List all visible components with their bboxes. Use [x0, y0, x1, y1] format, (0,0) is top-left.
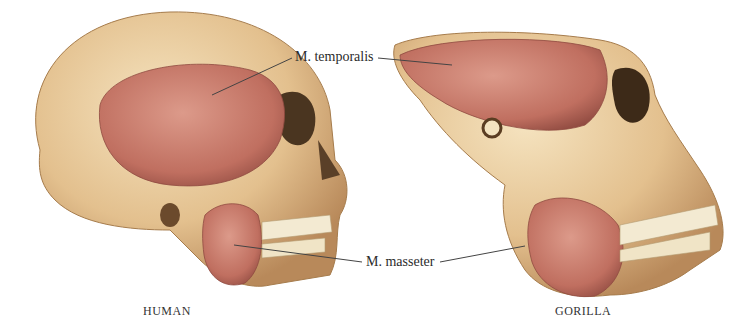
gorilla-caption: GORILLA [555, 304, 611, 319]
human-masseter-muscle [203, 204, 262, 285]
human-caption: HUMAN [143, 304, 191, 319]
gorilla-skull [394, 32, 723, 296]
gorilla-temporalis-muscle [400, 39, 607, 130]
masseter-label: M. masseter [366, 254, 434, 270]
temporalis-label: M. temporalis [295, 49, 374, 65]
human-temporalis-muscle [99, 64, 284, 186]
